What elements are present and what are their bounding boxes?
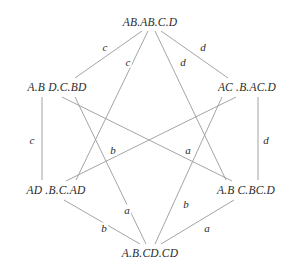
edges-group <box>42 31 258 244</box>
edge-label: d <box>179 57 187 68</box>
edge-label: a <box>203 223 211 234</box>
edge-label: b <box>182 199 190 210</box>
graph-edges-layer <box>0 0 298 277</box>
edge-label: c <box>29 135 36 146</box>
graph-edge <box>155 31 226 180</box>
edge-label: d <box>199 42 207 53</box>
graph-node-upper-right: AC .B.AC.D <box>216 81 278 93</box>
edge-label: c <box>125 57 132 68</box>
graph-edge <box>75 97 146 244</box>
graph-node-upper-left: A.B D.C.BD <box>26 81 89 93</box>
graph-edge <box>75 31 142 78</box>
graph-edge <box>155 97 222 244</box>
graph-edge <box>161 31 228 78</box>
graph-edge <box>66 97 236 181</box>
edge-label: a <box>184 145 192 156</box>
graph-node-bottom: A.B.CD.CD <box>120 247 180 259</box>
edge-label: c <box>102 42 109 53</box>
graph-edge <box>76 31 148 180</box>
graph-node-lower-right: A.B C.BC.D <box>215 184 277 196</box>
edge-label: d <box>262 135 270 146</box>
edge-label: b <box>109 145 117 156</box>
diagram-canvas: AB.AB.C.DA.B D.C.BDAC .B.AC.DAD .B.C.ADA… <box>0 0 298 277</box>
graph-node-lower-left: AD .B.C.AD <box>25 184 88 196</box>
edge-label: a <box>123 205 131 216</box>
edge-label: b <box>100 223 108 234</box>
graph-node-top: AB.AB.C.D <box>121 16 180 28</box>
